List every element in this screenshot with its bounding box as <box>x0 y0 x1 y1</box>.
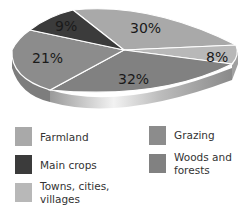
legend-swatch <box>15 127 32 146</box>
legend-item-farmland: Farmland <box>15 127 89 146</box>
legend-swatch <box>15 183 32 202</box>
legend-item-woods: Woods and forests <box>149 154 232 177</box>
legend-label: Farmland <box>40 131 89 144</box>
legend-label: Towns, cities, villages <box>40 180 109 206</box>
legend-item-towns: Towns, cities, villages <box>15 183 109 206</box>
legend-label: Grazing <box>174 129 215 142</box>
legend-swatch <box>15 155 32 174</box>
legend-label: Woods and forests <box>174 151 232 177</box>
legend-swatch <box>149 154 166 173</box>
legend-item-grazing: Grazing <box>149 126 215 145</box>
legend-item-main-crops: Main crops <box>15 155 97 174</box>
legend-label: Main crops <box>40 159 97 172</box>
legend: Farmland Main crops Towns, cities, villa… <box>0 0 245 213</box>
legend-swatch <box>149 126 166 145</box>
